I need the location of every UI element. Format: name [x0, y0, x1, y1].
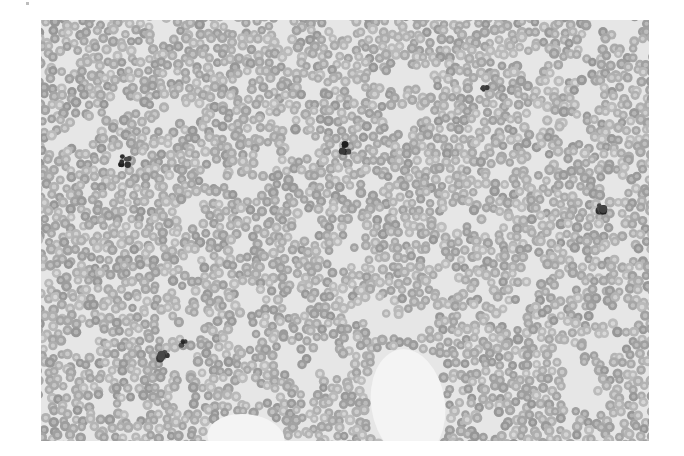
micrograph-frame [41, 20, 649, 441]
scan-artifact [26, 2, 29, 5]
blood-smear-micrograph [41, 20, 649, 441]
